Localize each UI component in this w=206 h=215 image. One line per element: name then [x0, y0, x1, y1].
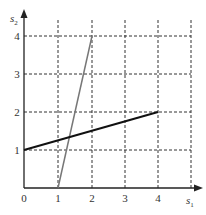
x-tick-1: 1 — [55, 192, 61, 204]
x-tick-labels: 0 1 2 3 4 — [21, 192, 161, 204]
y-tick-2: 2 — [14, 106, 20, 118]
x-tick-2: 2 — [89, 192, 95, 204]
y-axis-arrow-icon — [21, 9, 28, 18]
black-line — [24, 112, 158, 150]
x-axis-arrow-icon — [194, 185, 203, 192]
y-tick-4: 4 — [14, 30, 20, 42]
axes — [24, 16, 196, 188]
grid — [24, 20, 191, 188]
y-tick-1: 1 — [14, 144, 20, 156]
x-tick-0: 0 — [21, 192, 27, 204]
y-tick-3: 3 — [14, 68, 20, 80]
chart: 0 1 2 3 4 1 2 3 4 s1 s2 — [0, 0, 206, 215]
y-axis-label: s2 — [10, 12, 18, 27]
x-axis-label: s1 — [186, 194, 194, 209]
x-tick-3: 3 — [122, 192, 128, 204]
y-tick-labels: 1 2 3 4 — [14, 30, 20, 156]
x-tick-4: 4 — [155, 192, 161, 204]
